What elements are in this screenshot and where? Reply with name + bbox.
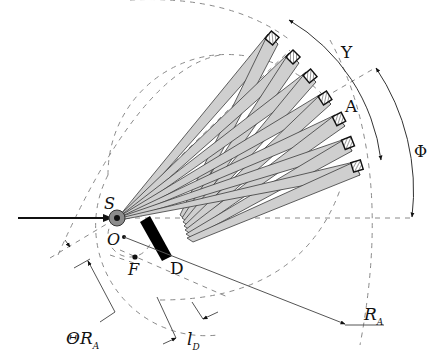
label-a: A: [345, 98, 357, 115]
ra-arrow: [124, 237, 345, 324]
label-d: D: [170, 260, 184, 277]
theta-ra-main: ΘR: [66, 328, 93, 348]
detector-7: [351, 160, 363, 172]
label-o: O: [107, 232, 120, 248]
focus-point: [132, 254, 137, 259]
beam-fan: [120, 34, 360, 242]
label-s: S: [104, 196, 115, 212]
theta-ra-sub: A: [93, 341, 100, 351]
offset-dashed-line: [50, 222, 110, 258]
ra-main: R: [364, 304, 377, 324]
label-ra: RA: [364, 306, 383, 323]
label-f: F: [128, 262, 139, 278]
label-ld: lD: [187, 331, 200, 348]
label-upsilon: Υ: [341, 44, 352, 61]
right-dashed-arc-outer: [330, 40, 372, 345]
ra-sub: A: [377, 317, 384, 327]
label-phi: Φ: [414, 144, 427, 160]
phi-arc-arrow: [376, 68, 414, 217]
right-dashed-arc-inner: [130, 0, 290, 40]
theta-ra-dimension: [65, 240, 115, 322]
label-theta-ra: ΘRA: [66, 330, 99, 347]
ld-sub: D: [192, 342, 199, 352]
